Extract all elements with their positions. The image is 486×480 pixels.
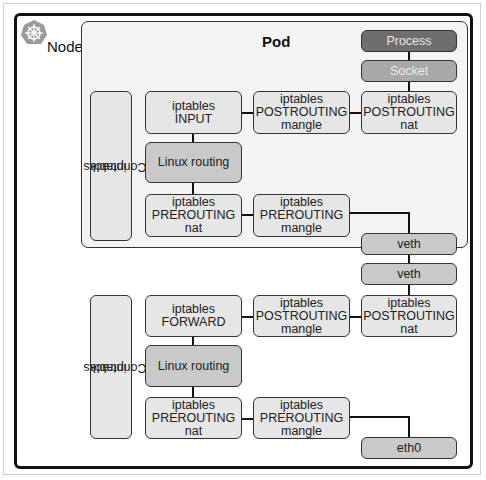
box-line: Linux routing — [158, 156, 230, 169]
connector — [350, 416, 409, 418]
box-line: nat — [185, 222, 202, 235]
box-line: POSTROUTING — [363, 310, 455, 323]
box-line: mangle — [281, 323, 322, 336]
box-line: nat — [185, 425, 202, 438]
host-veth-box: veth — [361, 263, 457, 285]
pod-postrouting-mangle-box: iptablesPOSTROUTINGmangle — [253, 91, 350, 134]
connector — [408, 52, 410, 60]
connector — [192, 337, 194, 345]
connector — [242, 418, 253, 420]
host-linux-routing-box: Linux routing — [145, 345, 242, 387]
host-conntrack-box: iptablesConntrack — [90, 295, 132, 439]
socket-label: Socket — [390, 65, 428, 78]
box-line: iptables — [280, 297, 323, 310]
box-line: iptables — [280, 399, 323, 412]
eth0-box: eth0 — [361, 437, 457, 459]
pod-postrouting-nat-box: iptablesPOSTROUTINGnat — [361, 91, 457, 134]
box-line: veth — [397, 268, 421, 281]
connector — [242, 112, 253, 114]
conntrack-line2: Conntrack — [89, 160, 146, 173]
connector — [350, 112, 361, 114]
connector — [192, 387, 194, 397]
connector — [408, 82, 410, 91]
connector — [192, 183, 194, 194]
box-line: POSTROUTING — [256, 310, 348, 323]
host-forward-box: iptablesFORWARD — [145, 295, 242, 337]
box-line: INPUT — [175, 113, 213, 126]
kubernetes-helm-icon — [20, 19, 48, 47]
connector — [408, 212, 410, 233]
connector — [408, 416, 410, 437]
pod-input-box: iptablesINPUT — [145, 91, 242, 134]
process-label: Process — [386, 35, 431, 48]
box-line: iptables — [387, 297, 430, 310]
host-prerouting-mangle-box: iptablesPREROUTINGmangle — [253, 397, 350, 439]
box-line: nat — [400, 323, 417, 336]
box-line: PREROUTING — [152, 412, 235, 425]
box-line: FORWARD — [162, 316, 226, 329]
process-box: Process — [361, 30, 457, 52]
pod-label: Pod — [262, 33, 290, 50]
host-postrouting-nat-box: iptablesPOSTROUTINGnat — [361, 295, 457, 337]
connector — [242, 214, 253, 216]
connector — [408, 255, 410, 263]
connector — [192, 134, 194, 142]
box-line: mangle — [281, 119, 322, 132]
box-line: nat — [400, 119, 417, 132]
box-line: eth0 — [397, 442, 421, 455]
box-line: PREROUTING — [260, 412, 343, 425]
box-line: Linux routing — [158, 360, 230, 373]
host-prerouting-nat-box: iptablesPREROUTINGnat — [145, 397, 242, 439]
connector — [350, 212, 409, 214]
pod-prerouting-nat-box: iptablesPREROUTINGnat — [145, 194, 242, 237]
node-label: Node — [47, 38, 83, 55]
socket-box: Socket — [361, 60, 457, 82]
box-line: mangle — [281, 425, 322, 438]
connector — [350, 316, 361, 318]
pod-linux-routing-box: Linux routing — [145, 142, 242, 183]
host-postrouting-mangle-box: iptablesPOSTROUTINGmangle — [253, 295, 350, 337]
box-line: veth — [397, 238, 421, 251]
pod-prerouting-mangle-box: iptablesPREROUTINGmangle — [253, 194, 350, 237]
pod-conntrack-box: iptablesConntrack — [90, 91, 132, 241]
conntrack-line2: Conntrack — [89, 361, 146, 374]
connector — [242, 316, 253, 318]
box-line: iptables — [172, 100, 215, 113]
connector — [408, 285, 410, 295]
box-line: mangle — [281, 222, 322, 235]
box-line: iptables — [172, 399, 215, 412]
pod-veth-box: veth — [361, 233, 457, 255]
